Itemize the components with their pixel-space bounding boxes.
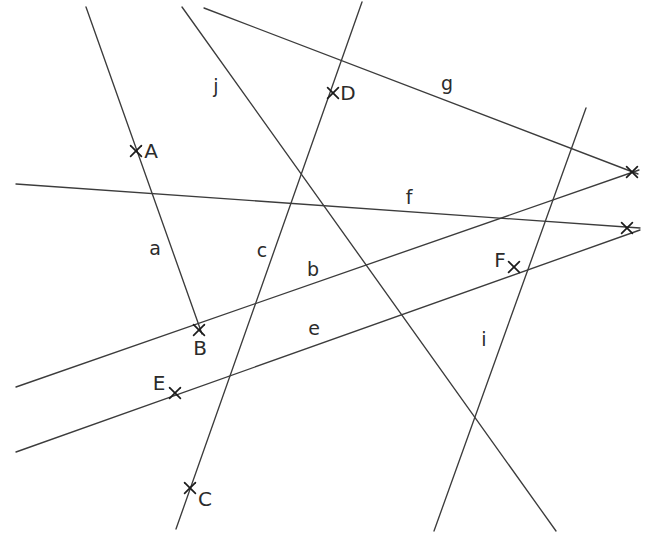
geometry-diagram-canvas: ajgcfbei ADBFEC: [0, 0, 646, 550]
line-label-i: i: [481, 328, 486, 350]
geometry-line-c: [176, 2, 362, 529]
point-label-B: B: [193, 336, 207, 360]
point-mark-C: [185, 483, 196, 494]
line-label-c: c: [257, 239, 267, 261]
geometry-line-g: [204, 8, 638, 174]
line-label-e: e: [308, 317, 320, 339]
line-label-b: b: [307, 258, 319, 280]
line-labels-group: ajgcfbei: [149, 72, 486, 350]
point-mark-P1: [627, 167, 638, 178]
geometry-line-f: [16, 184, 640, 228]
point-label-F: F: [494, 248, 506, 272]
point-label-E: E: [153, 371, 166, 395]
point-labels-group: ADBFEC: [144, 81, 506, 511]
lines-group: [16, 2, 640, 531]
geometry-line-a: [86, 7, 202, 334]
point-mark-E: [170, 388, 181, 399]
geometry-line-e: [16, 230, 640, 452]
point-mark-F: [509, 262, 520, 273]
geometry-svg: ajgcfbei ADBFEC: [0, 0, 646, 550]
geometry-line-b: [16, 170, 639, 387]
point-label-C: C: [198, 487, 212, 511]
point-label-A: A: [144, 139, 158, 163]
line-label-j: j: [212, 75, 218, 97]
line-label-f: f: [406, 186, 414, 208]
point-label-D: D: [340, 81, 355, 105]
line-label-g: g: [441, 72, 453, 94]
line-label-a: a: [149, 237, 161, 259]
